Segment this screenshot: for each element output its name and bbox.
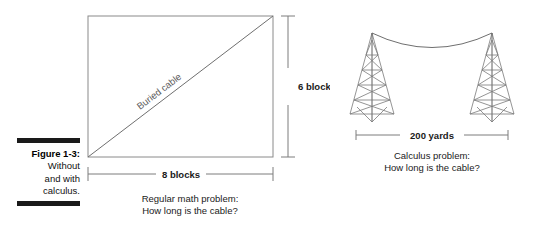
caption-line-2: and with [0, 173, 80, 185]
right-problem-caption: Calculus problem: How long is the cable? [357, 150, 507, 175]
tower-left [350, 33, 394, 122]
width-dimension-label: 8 blocks [162, 169, 200, 180]
height-dimension-group: 6 blocks [281, 16, 330, 157]
left-problem-caption-line-1: Regular math problem: [142, 193, 239, 204]
height-dimension-label: 6 blocks [298, 81, 330, 92]
right-problem-caption-line-1: Calculus problem: [394, 150, 470, 161]
buried-cable-diagonal [88, 16, 273, 157]
left-problem-caption-line-2: How long is the cable? [142, 205, 238, 216]
right-problem-caption-line-2: How long is the cable? [384, 162, 480, 173]
towers-hanging-cable-diagram: 200 yards [340, 22, 525, 147]
tower-right [470, 33, 514, 122]
span-dimension-group: 200 yards [356, 130, 508, 141]
figure-1-3: Figure 1-3: Without and with calculus. B… [0, 0, 533, 230]
figure-number-label: Figure 1-3: [0, 148, 80, 160]
hanging-cable [372, 33, 492, 48]
width-dimension-group: 8 blocks [88, 167, 273, 181]
buried-cable-label: Buried cable [135, 71, 184, 112]
rectangle-buried-cable-diagram: Buried cable 6 blocks 8 blocks [70, 6, 330, 191]
caption-rule-bottom [17, 201, 80, 206]
span-dimension-label: 200 yards [410, 130, 454, 141]
caption-line-3: calculus. [0, 185, 80, 197]
caption-line-1: Without [0, 160, 80, 172]
left-problem-caption: Regular math problem: How long is the ca… [115, 193, 265, 218]
